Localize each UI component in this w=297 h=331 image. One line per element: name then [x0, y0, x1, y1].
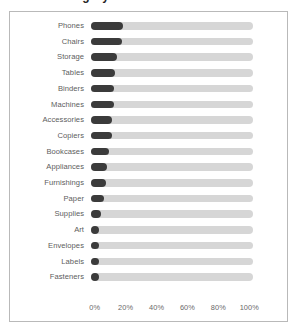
bar-row[interactable]: Bookcases: [10, 144, 287, 159]
x-axis-tick-label: 40%: [149, 303, 164, 312]
x-axis-tick-label: 100%: [240, 303, 259, 312]
bar-row[interactable]: Labels: [10, 254, 287, 269]
bar-track: [91, 101, 253, 109]
plot-area: PhonesChairsStorageTablesBindersMachines…: [10, 12, 287, 321]
bar-track: [91, 195, 253, 203]
bar-fill: [91, 132, 112, 140]
bar-fill: [91, 69, 115, 77]
bar-row[interactable]: Copiers: [10, 128, 287, 143]
bar-category-label: Binders: [10, 81, 84, 96]
bar-track: [91, 53, 253, 61]
bar-row[interactable]: Binders: [10, 81, 287, 96]
bar-fill: [91, 116, 112, 124]
chart-title-clipped: Sub-Category: [0, 0, 297, 11]
bar-category-label: Supplies: [10, 206, 84, 221]
bar-fill: [91, 38, 122, 46]
x-axis-tick-label: 20%: [118, 303, 133, 312]
bar-category-label: Tables: [10, 65, 84, 80]
bar-category-label: Appliances: [10, 159, 84, 174]
bar-category-label: Storage: [10, 49, 84, 64]
bar-row[interactable]: Art: [10, 222, 287, 237]
chart-screenshot: Sub-Category PhonesChairsStorageTablesBi…: [0, 0, 297, 331]
bar-category-label: Chairs: [10, 34, 84, 49]
bar-category-label: Labels: [10, 254, 84, 269]
bar-fill: [91, 210, 101, 218]
x-axis: 0%20%40%60%80%100%: [10, 303, 287, 315]
bar-category-label: Envelopes: [10, 238, 84, 253]
bar-fill: [91, 53, 117, 61]
bar-row[interactable]: Appliances: [10, 159, 287, 174]
bar-track: [91, 85, 253, 93]
bar-row[interactable]: Accessories: [10, 112, 287, 127]
bar-fill: [91, 195, 104, 203]
bar-row[interactable]: Supplies: [10, 206, 287, 221]
bar-category-label: Art: [10, 222, 84, 237]
bar-track: [91, 210, 253, 218]
bar-category-label: Phones: [10, 18, 84, 33]
bar-track: [91, 179, 253, 187]
bar-row[interactable]: Machines: [10, 97, 287, 112]
bar-fill: [91, 226, 99, 234]
bar-fill: [91, 273, 99, 281]
bar-row[interactable]: Storage: [10, 49, 287, 64]
bar-fill: [91, 163, 107, 171]
bar-track: [91, 116, 253, 124]
bar-category-label: Accessories: [10, 112, 84, 127]
bar-fill: [91, 242, 99, 250]
bar-track: [91, 226, 253, 234]
bar-fill: [91, 258, 99, 266]
x-axis-tick-label: 80%: [211, 303, 226, 312]
bar-category-label: Furnishings: [10, 175, 84, 190]
bar-track: [91, 163, 253, 171]
bar-fill: [91, 101, 114, 109]
bar-category-label: Bookcases: [10, 144, 84, 159]
bar-fill: [91, 148, 109, 156]
bar-fill: [91, 179, 106, 187]
bar-track: [91, 22, 253, 30]
bar-fill: [91, 22, 123, 30]
x-axis-tick-label: 60%: [180, 303, 195, 312]
bar-track: [91, 69, 253, 77]
bar-track: [91, 258, 253, 266]
bar-track: [91, 148, 253, 156]
bar-track: [91, 242, 253, 250]
bar-row[interactable]: Chairs: [10, 34, 287, 49]
bar-row[interactable]: Phones: [10, 18, 287, 33]
x-axis-tick-label: 0%: [89, 303, 100, 312]
bar-row[interactable]: Furnishings: [10, 175, 287, 190]
chart-title: Sub-Category: [28, 0, 109, 3]
bar-row[interactable]: Fasteners: [10, 269, 287, 284]
bar-category-label: Paper: [10, 191, 84, 206]
bar-category-label: Machines: [10, 97, 84, 112]
bar-track: [91, 38, 253, 46]
chart-frame: PhonesChairsStorageTablesBindersMachines…: [9, 11, 288, 322]
bar-category-label: Copiers: [10, 128, 84, 143]
bar-category-label: Fasteners: [10, 269, 84, 284]
bar-row[interactable]: Paper: [10, 191, 287, 206]
bar-row[interactable]: Tables: [10, 65, 287, 80]
bar-track: [91, 132, 253, 140]
bar-track: [91, 273, 253, 281]
bar-row[interactable]: Envelopes: [10, 238, 287, 253]
bar-fill: [91, 85, 114, 93]
